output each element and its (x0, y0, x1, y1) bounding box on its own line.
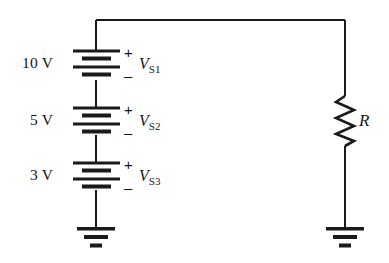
vs1-plate-short-1 (82, 57, 111, 61)
vs1-subscript: S1 (149, 63, 161, 75)
source-value-label-vs2: 5 V (30, 112, 53, 128)
polarity-minus-vs2: – (124, 125, 132, 140)
left-ground-bar-1 (77, 227, 115, 231)
vs3-letter: V (139, 167, 149, 184)
right-ground-bar-1 (326, 227, 364, 231)
left-ground-bar-2 (84, 235, 108, 239)
circuit-schematic-svg (0, 0, 389, 263)
right-ground-bar-2 (333, 235, 357, 239)
resistor-symbol (336, 96, 354, 146)
polarity-minus-vs3: – (124, 180, 132, 195)
polarity-plus-vs3: + (124, 157, 133, 172)
vs3-plate-short-2 (82, 185, 111, 189)
battery-symbol-vs3 (73, 162, 120, 189)
vs1-plate-short-2 (82, 73, 111, 77)
battery-symbol-vs2 (73, 107, 120, 134)
polarity-plus-vs2: + (124, 102, 133, 117)
ground-symbol-left (77, 227, 115, 248)
source-value-label-vs1: 10 V (22, 55, 53, 71)
polarity-minus-vs1: – (124, 68, 132, 83)
vs3-plate-long-1 (73, 162, 120, 165)
vs1-letter: V (139, 55, 149, 72)
battery-symbol-vs1 (73, 50, 120, 77)
source-name-label-vs2: VS2 (139, 113, 161, 132)
vs3-subscript: S3 (149, 175, 161, 187)
vs1-plate-long-2 (73, 66, 120, 69)
vs2-plate-long-1 (73, 107, 120, 110)
source-value-label-vs3: 3 V (30, 167, 53, 183)
left-ground-bar-3 (90, 244, 102, 248)
vs2-plate-short-1 (82, 114, 111, 118)
resistor-label: R (359, 112, 369, 129)
ground-symbol-right (326, 227, 364, 248)
vs2-subscript: S2 (149, 120, 161, 132)
vs2-plate-long-2 (73, 123, 120, 126)
polarity-plus-vs1: + (124, 45, 133, 60)
circuit-diagram: 10 V + – VS1 5 V + – VS2 3 V + – VS3 R (0, 0, 389, 263)
vs2-plate-short-2 (82, 130, 111, 134)
vs1-plate-long-1 (73, 50, 120, 53)
vs2-letter: V (139, 112, 149, 129)
source-name-label-vs3: VS3 (139, 168, 161, 187)
vs3-plate-short-1 (82, 169, 111, 173)
vs3-plate-long-2 (73, 178, 120, 181)
source-name-label-vs1: VS1 (139, 56, 161, 75)
right-ground-bar-3 (339, 244, 351, 248)
